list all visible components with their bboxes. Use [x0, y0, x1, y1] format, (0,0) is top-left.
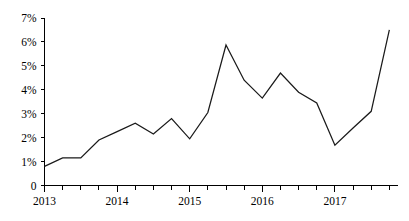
x-tick-label-2014: 2014	[106, 195, 129, 207]
x-tick-label-2013: 2013	[33, 195, 56, 207]
y-tick-label-1: 1%	[21, 156, 37, 168]
y-tick-label-7: 7%	[21, 12, 37, 24]
y-axis-ticks	[41, 18, 45, 186]
chart-container: 01%2%3%4%5%6%7% 20132014201520162017	[0, 0, 409, 221]
x-axis-ticks	[45, 186, 390, 192]
x-tick-label-2016: 2016	[251, 195, 274, 207]
line-chart: 01%2%3%4%5%6%7% 20132014201520162017	[0, 0, 409, 221]
data-line-series-value	[45, 30, 390, 166]
y-tick-label-4: 4%	[21, 84, 37, 96]
y-axis-tick-labels: 01%2%3%4%5%6%7%	[21, 12, 37, 192]
x-axis: 20132014201520162017	[33, 186, 398, 207]
y-tick-label-5: 5%	[21, 60, 37, 72]
y-tick-label-0: 0	[31, 180, 37, 192]
y-tick-label-3: 3%	[21, 108, 37, 120]
plot-area	[45, 30, 390, 166]
x-tick-label-2017: 2017	[323, 195, 346, 207]
x-axis-tick-labels: 20132014201520162017	[33, 195, 347, 207]
y-tick-label-2: 2%	[21, 132, 37, 144]
y-tick-label-6: 6%	[21, 36, 37, 48]
x-tick-label-2015: 2015	[178, 195, 201, 207]
y-axis: 01%2%3%4%5%6%7%	[21, 12, 44, 192]
